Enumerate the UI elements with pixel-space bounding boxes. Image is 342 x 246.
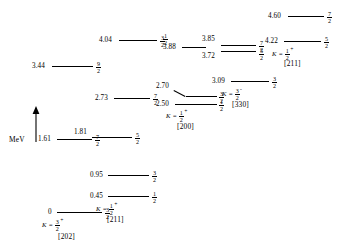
level-energy-045: 0.45 [90, 193, 103, 200]
band-nilsson-label-202: [202] [58, 233, 75, 240]
level-energy-095: 0.95 [90, 172, 103, 179]
level-energy-0: 0 [48, 209, 52, 216]
k-parity: + [290, 47, 294, 52]
level-energy-422: 4.22 [265, 38, 278, 45]
level-bar-250 [175, 104, 217, 105]
spin-denominator: 2 [327, 18, 332, 24]
level-bar-095 [108, 175, 149, 176]
level-bar-161 [57, 139, 92, 140]
level-energy-344: 3.44 [32, 63, 45, 70]
spin-numerator: 1 [152, 191, 157, 198]
level-bar-404 [119, 40, 157, 41]
energy-level-diagram: MeV 0 3 2 K = 3 2 + [202] 0.45 1 2 K = 1… [0, 0, 342, 246]
level-energy-250: 2.50 [156, 101, 169, 108]
spin-numerator: 3 [272, 76, 277, 83]
spin-numerator: 5 [135, 132, 140, 139]
spin-numerator: 3 [160, 35, 165, 42]
level-bar-422 [284, 41, 321, 42]
level-energy-181: 1.81 [74, 129, 87, 136]
level-spin-045: 1 2 [152, 191, 157, 205]
band-nilsson-label-200: [200] [177, 123, 194, 130]
level-energy-270: 2.70 [156, 83, 169, 90]
level-spin-404: 3 2 [160, 35, 165, 49]
level-bar-385 [221, 45, 256, 46]
spin-numerator: 7 [259, 40, 264, 47]
spin-denominator: 2 [259, 55, 264, 61]
level-spin-181: 5 2 [135, 132, 140, 146]
level-spin-385: 7 2 [259, 40, 264, 54]
spin-denominator: 2 [95, 141, 100, 147]
spin-denominator: 2 [219, 106, 224, 112]
band-nilsson-label-211-high: [211] [284, 60, 301, 67]
k-prefix: K = [272, 50, 283, 57]
spin-denominator: 2 [272, 83, 277, 89]
k-parity: + [184, 109, 188, 114]
level-spin-460: 7 2 [327, 11, 332, 25]
spin-denominator: 2 [152, 198, 157, 204]
level-bar-270 [186, 96, 217, 97]
k-prefix: K = [166, 112, 177, 119]
k-prefix: K = [96, 205, 107, 212]
band-k-label-202: K = 3 2 + [42, 219, 63, 233]
spin-denominator: 2 [135, 139, 140, 145]
spin-denominator: 2 [259, 47, 264, 53]
level-bar-045 [108, 196, 149, 197]
k-parity: - [240, 87, 242, 92]
level-energy-273: 2.73 [95, 95, 108, 102]
level-energy-460: 4.60 [268, 13, 281, 20]
level-energy-309: 3.09 [212, 78, 225, 85]
spin-numerator: 9 [96, 61, 101, 68]
level-energy-372: 3.72 [202, 53, 215, 60]
k-prefix: K = [42, 221, 53, 228]
level-bar-309 [231, 81, 269, 82]
spin-denominator: 2 [324, 43, 329, 49]
level-energy-404: 4.04 [99, 37, 112, 44]
level-connector-270 [174, 90, 186, 97]
spin-denominator: 2 [96, 68, 101, 74]
level-spin-161: 7 2 [95, 134, 100, 148]
k-parity: + [60, 218, 64, 223]
spin-denominator: 2 [160, 42, 165, 48]
spin-numerator: 7 [95, 134, 100, 141]
level-energy-385: 3.85 [202, 36, 215, 43]
spin-numerator: 5 [324, 36, 329, 43]
spin-numerator: 3 [152, 170, 157, 177]
level-spin-309: 3 2 [272, 76, 277, 90]
band-nilsson-label-330: [330] [232, 101, 249, 108]
level-bar-372 [221, 51, 256, 52]
level-bar-460 [288, 16, 324, 17]
energy-axis-label: MeV [9, 136, 25, 143]
k-prefix: K = [222, 90, 233, 97]
level-spin-095: 3 2 [152, 170, 157, 184]
level-bar-388 [182, 47, 206, 48]
spin-numerator: 7 [327, 11, 332, 18]
level-bar-344 [52, 66, 93, 67]
band-nilsson-label-211-low: [211] [107, 216, 124, 223]
level-bar-273 [114, 98, 150, 99]
spin-denominator: 2 [152, 177, 157, 183]
level-spin-344: 9 2 [96, 61, 101, 75]
level-spin-422: 5 2 [324, 36, 329, 50]
level-energy-161: 1.61 [38, 136, 51, 143]
k-parity: + [114, 202, 118, 207]
